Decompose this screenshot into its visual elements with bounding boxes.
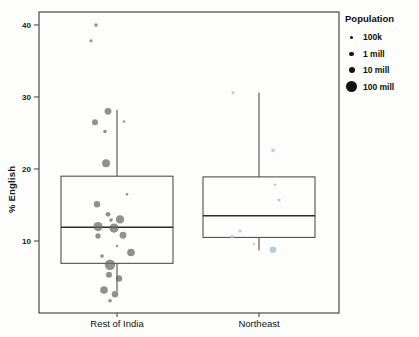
- y-axis-title: % English: [6, 166, 17, 213]
- boxplot-figure: 10203040Rest of IndiaNortheast % English…: [0, 0, 419, 337]
- data-point: [106, 212, 111, 217]
- y-tick-label: 30: [22, 93, 31, 102]
- data-point: [274, 184, 276, 186]
- data-point: [105, 260, 115, 270]
- legend-items: 100k1 mill10 mill100 mill: [345, 29, 394, 95]
- data-point: [106, 272, 112, 278]
- data-point: [126, 193, 128, 195]
- legend-dot-column: [345, 52, 358, 56]
- data-point: [278, 198, 281, 201]
- data-point: [94, 23, 98, 27]
- y-tick-label: 40: [22, 21, 31, 30]
- legend-item: 1 mill: [345, 46, 394, 63]
- y-tick-label: 10: [22, 237, 31, 246]
- data-point: [95, 233, 100, 238]
- data-point: [103, 130, 107, 134]
- data-point: [123, 120, 125, 122]
- data-point: [109, 223, 118, 232]
- data-point: [90, 39, 93, 42]
- legend-size-dot-icon: [349, 67, 355, 73]
- plot-border: [39, 12, 339, 313]
- data-point: [239, 229, 242, 232]
- legend-dot-column: [345, 81, 358, 92]
- data-point: [116, 275, 122, 281]
- y-tick-label: 20: [22, 165, 31, 174]
- data-point: [112, 291, 118, 297]
- legend-item-label: 100 mill: [363, 82, 394, 92]
- legend-size-dot-icon: [349, 52, 353, 56]
- legend: Population 100k1 mill10 mill100 mill: [345, 13, 394, 95]
- legend-dot-column: [345, 67, 358, 73]
- legend-title: Population: [345, 13, 394, 24]
- data-point: [93, 222, 102, 231]
- data-point: [271, 148, 275, 152]
- data-point: [100, 254, 104, 258]
- data-point: [92, 119, 98, 125]
- legend-size-dot-icon: [350, 36, 353, 39]
- data-point: [108, 299, 112, 303]
- legend-item-label: 1 mill: [363, 49, 385, 59]
- legend-item: 100 mill: [345, 79, 394, 96]
- data-point: [232, 91, 235, 94]
- data-point: [100, 286, 108, 294]
- data-point: [94, 201, 100, 207]
- data-point: [230, 235, 234, 239]
- legend-dot-column: [345, 36, 358, 39]
- legend-item-label: 10 mill: [363, 65, 389, 75]
- x-category-label: Rest of India: [90, 318, 144, 329]
- x-category-label: Northeast: [238, 318, 280, 329]
- data-point: [120, 232, 127, 239]
- data-point: [102, 159, 110, 167]
- data-point: [105, 108, 112, 115]
- legend-item: 100k: [345, 29, 394, 46]
- data-point: [116, 245, 118, 247]
- legend-item-label: 100k: [363, 32, 382, 42]
- data-point: [127, 249, 135, 257]
- data-point: [270, 246, 276, 252]
- legend-size-dot-icon: [346, 81, 357, 92]
- data-point: [109, 218, 113, 222]
- legend-item: 10 mill: [345, 62, 394, 79]
- data-point: [116, 215, 124, 223]
- data-point: [253, 243, 255, 245]
- box: [203, 177, 315, 237]
